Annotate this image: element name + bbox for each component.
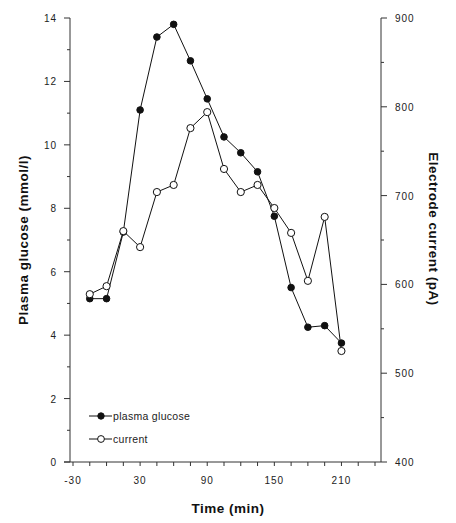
plasma-glucose-marker <box>321 322 328 329</box>
plasma-glucose-marker <box>338 340 345 347</box>
current-marker <box>153 188 160 195</box>
legend-item: current <box>89 433 148 445</box>
current-marker <box>86 291 93 298</box>
legend-label: plasma glucose <box>113 410 190 422</box>
current-marker <box>170 181 177 188</box>
plasma-glucose-line <box>90 24 342 343</box>
y-right-tick-label: 900 <box>395 13 415 24</box>
y-right-tick-label: 500 <box>395 368 415 379</box>
plasma-glucose-marker <box>305 324 312 331</box>
current-marker <box>254 181 261 188</box>
plasma-glucose-marker <box>204 96 211 103</box>
y-left-axis-title: Plasma glucose (mmol/l) <box>16 155 31 325</box>
current-marker <box>220 165 227 172</box>
y-left-tick-label: 8 <box>50 203 57 214</box>
current-marker <box>338 347 345 354</box>
current-marker <box>304 277 311 284</box>
x-tick-label: 30 <box>134 475 147 486</box>
plasma-glucose-marker <box>154 34 161 41</box>
y-left-tick-label: 10 <box>44 140 57 151</box>
legend-item: plasma glucose <box>89 410 190 422</box>
x-tick-label: 210 <box>332 475 352 486</box>
x-tick-label: -30 <box>64 475 81 486</box>
y-right-axis-title: Electrode current (pA) <box>426 152 441 306</box>
plasma-glucose-marker <box>103 295 110 302</box>
plasma-glucose-marker <box>221 134 228 141</box>
y-left-tick-label: 2 <box>50 394 57 405</box>
open-circle-icon <box>98 436 105 443</box>
plasma-glucose-marker <box>254 169 261 176</box>
y-left-tick-label: 12 <box>44 76 57 87</box>
plasma-glucose-marker <box>187 58 194 65</box>
current-marker <box>271 204 278 211</box>
y-right-tick-label: 800 <box>395 102 415 113</box>
x-tick-label: 150 <box>264 475 284 486</box>
y-left-tick-label: 0 <box>50 457 57 468</box>
legend: plasma glucosecurrent <box>89 410 190 445</box>
x-tick-label: 90 <box>201 475 214 486</box>
plasma-glucose-marker <box>237 149 244 156</box>
y-left-tick-label: 4 <box>50 330 57 341</box>
y-left-tick-label: 14 <box>44 13 57 24</box>
current-marker <box>237 188 244 195</box>
plasma-glucose-marker <box>137 107 144 114</box>
chart: 02468101214400500600700800900-3030901502… <box>0 0 456 523</box>
filled-circle-icon <box>98 413 104 419</box>
legend-label: current <box>113 433 148 445</box>
current-marker <box>120 228 127 235</box>
y-right-tick-label: 400 <box>395 457 415 468</box>
current-marker <box>204 109 211 116</box>
current-marker <box>321 213 328 220</box>
current-marker <box>288 229 295 236</box>
data-series <box>86 21 345 355</box>
current-line <box>90 112 342 351</box>
current-marker <box>137 244 144 251</box>
current-marker <box>187 125 194 132</box>
y-left-tick-label: 6 <box>50 267 57 278</box>
plasma-glucose-marker <box>271 213 278 220</box>
y-right-tick-label: 700 <box>395 191 415 202</box>
plasma-glucose-marker <box>288 284 295 291</box>
plasma-glucose-marker <box>170 21 177 28</box>
y-right-tick-label: 600 <box>395 279 415 290</box>
current-marker <box>103 283 110 290</box>
x-axis-title: Time (min) <box>191 501 264 516</box>
